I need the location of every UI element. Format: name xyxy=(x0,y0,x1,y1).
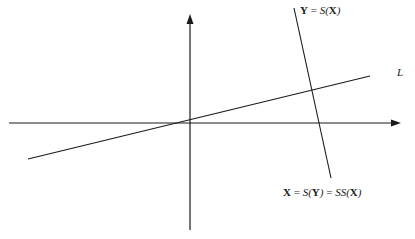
label-bold-x: X xyxy=(329,4,337,16)
x-axis-arrowhead-icon xyxy=(391,120,401,127)
function-s: S( xyxy=(303,186,312,198)
label-bold-x: X xyxy=(350,186,358,198)
label-line-l: L xyxy=(397,67,403,78)
label-bottom-x-equals-ss-x: X = S(Y) = SS(X) xyxy=(283,187,361,198)
function-ss: SS( xyxy=(335,186,350,198)
label-bold-y: Y xyxy=(312,186,320,198)
function-s: S( xyxy=(320,4,329,16)
equals-sign: = xyxy=(291,186,303,198)
label-top-y-equals-s-x: Y = S(X) xyxy=(300,5,340,16)
close-paren: ) xyxy=(358,186,362,198)
equals-sign: = xyxy=(308,4,320,16)
y-axis-arrowhead-icon xyxy=(187,14,194,24)
label-bold-x: X xyxy=(283,186,291,198)
equals-sign: = xyxy=(323,186,335,198)
label-bold-y: Y xyxy=(300,4,308,16)
line-l-text: L xyxy=(397,66,403,78)
line-l xyxy=(28,76,370,159)
close-paren: ) xyxy=(337,4,341,16)
diagram-canvas xyxy=(0,0,415,239)
